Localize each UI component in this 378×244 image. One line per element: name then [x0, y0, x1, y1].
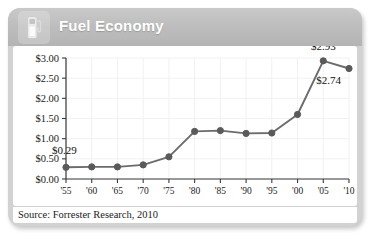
y-axis-tick-labels: $3.00$2.50$2.00$1.50$1.00$0.50$0.00: [35, 53, 59, 185]
data-point-marker: [243, 130, 249, 136]
x-axis-tick-labels: '55'60'65'70'75'80'85'90'95'00'05'10: [60, 186, 354, 196]
y-axis-label: $2.00: [35, 93, 59, 104]
x-axis-label: '70: [138, 186, 149, 196]
data-point-label: $2.74: [316, 74, 341, 86]
gas-pump-icon: [18, 11, 50, 44]
x-axis-label: '95: [266, 186, 277, 196]
data-point-marker: [89, 164, 95, 170]
data-point-marker: [166, 154, 172, 160]
y-axis-label: $2.50: [35, 73, 59, 84]
x-axis-label: '85: [215, 186, 226, 196]
chart-data-labels: $0.29$2.93$2.74: [52, 46, 342, 156]
x-axis-label: '05: [318, 186, 329, 196]
fuel-economy-card: Fuel Economy $3.00$2.50$2.00$1.50$1.00$0…: [8, 8, 362, 226]
card-header: Fuel Economy: [8, 8, 362, 46]
chart-panel: $3.00$2.50$2.00$1.50$1.00$0.50$0.00 '55'…: [13, 46, 357, 206]
x-axis-label: '90: [240, 186, 251, 196]
x-axis-label: '10: [343, 186, 354, 196]
x-axis-label: '55: [60, 186, 71, 196]
data-point-marker: [217, 128, 223, 134]
data-point-label: $0.29: [52, 144, 77, 156]
chart-data-markers: [63, 58, 352, 171]
data-point-marker: [63, 164, 69, 170]
data-point-marker: [320, 58, 326, 64]
data-point-marker: [294, 111, 300, 117]
data-point-label: $2.93: [311, 46, 336, 52]
data-point-marker: [346, 65, 352, 71]
x-axis-label: '75: [163, 186, 174, 196]
x-axis-label: '00: [292, 186, 303, 196]
chart-line-series: [66, 61, 349, 167]
x-axis-label: '65: [112, 186, 123, 196]
y-axis-label: $0.00: [35, 174, 59, 185]
x-axis-label: '60: [86, 186, 97, 196]
x-axis-label: '80: [189, 186, 200, 196]
data-point-marker: [114, 164, 120, 170]
data-point-marker: [192, 128, 198, 134]
data-point-marker: [140, 162, 146, 168]
page-title: Fuel Economy: [59, 17, 164, 34]
data-point-marker: [269, 130, 275, 136]
y-axis-label: $3.00: [35, 53, 59, 64]
card-footer: Source: Forrester Research, 2010: [13, 207, 357, 223]
y-axis-label: $1.00: [35, 133, 59, 144]
fuel-economy-line-chart: $3.00$2.50$2.00$1.50$1.00$0.50$0.00 '55'…: [13, 46, 357, 206]
chart-axes: [62, 58, 349, 183]
source-note: Source: Forrester Research, 2010: [18, 209, 158, 220]
y-axis-label: $1.50: [35, 113, 59, 124]
chart-gridlines: [66, 58, 349, 179]
